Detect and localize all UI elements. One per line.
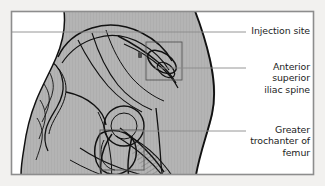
label-greater-trochanter-of-femur: Greater trochanter of femur bbox=[250, 124, 310, 158]
injection-site-dot bbox=[138, 52, 142, 58]
label-injection-site: Injection site bbox=[251, 25, 310, 36]
anatomy-figure: Injection site Anterior superior iliac s… bbox=[0, 0, 325, 186]
label-anterior-superior-iliac-spine: Anterior superior iliac spine bbox=[264, 61, 310, 95]
